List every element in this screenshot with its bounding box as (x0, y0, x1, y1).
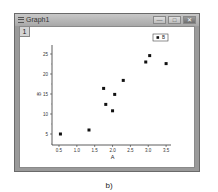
minimize-button[interactable]: — (153, 16, 166, 24)
legend-box (153, 34, 168, 41)
legend-marker-icon (157, 36, 160, 39)
y-tick-label: 15 (43, 92, 49, 97)
x-axis-label: A (111, 154, 115, 160)
data-point (165, 62, 168, 65)
data-point (122, 79, 125, 82)
scatter-plot: 5101520250.51.01.52.02.53.03.5ABB (20, 27, 196, 170)
title-bar[interactable]: Graph1 — □ ✕ (15, 14, 199, 26)
figure-caption: b) (0, 181, 218, 190)
graph-page: 1 5101520250.51.01.52.02.53.03.5ABB (19, 26, 195, 168)
graph-window: Graph1 — □ ✕ 1 5101520250.51.01.52.02.53… (14, 13, 200, 172)
close-button[interactable]: ✕ (183, 16, 196, 24)
y-tick-label: 5 (45, 132, 48, 137)
y-tick-label: 20 (43, 72, 49, 77)
y-axis-label: B (36, 92, 42, 96)
data-point (148, 54, 151, 57)
window-title: Graph1 (26, 15, 49, 25)
x-tick-label: 1.5 (92, 148, 99, 153)
y-tick-label: 10 (43, 112, 49, 117)
maximize-button[interactable]: □ (168, 16, 181, 24)
x-tick-label: 2.5 (127, 148, 134, 153)
x-tick-label: 1.0 (74, 148, 81, 153)
data-point (113, 93, 116, 96)
data-point (102, 87, 105, 90)
x-tick-label: 0.5 (56, 148, 63, 153)
data-point (59, 133, 62, 136)
x-tick-label: 3.5 (163, 148, 170, 153)
x-tick-label: 3.0 (145, 148, 152, 153)
y-tick-label: 25 (43, 52, 49, 57)
graph-window-icon (18, 17, 24, 23)
x-tick-label: 2.0 (109, 148, 116, 153)
data-point (111, 109, 114, 112)
legend-label: B (162, 35, 165, 40)
data-point (144, 61, 147, 64)
data-point (104, 103, 107, 106)
data-point (87, 129, 90, 132)
